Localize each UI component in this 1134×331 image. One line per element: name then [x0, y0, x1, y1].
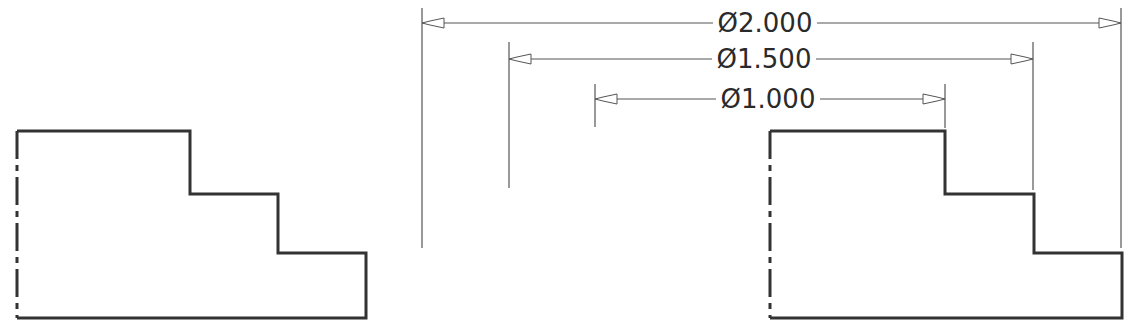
profile-outline [17, 131, 366, 318]
profile-outline [770, 131, 1122, 318]
arrow-left-icon [595, 94, 617, 104]
drawing-canvas: Ø2.000Ø1.500Ø1.000 [0, 0, 1134, 331]
arrow-right-icon [1011, 54, 1033, 64]
left-profile [17, 131, 366, 318]
dimension-1000: Ø1.000 [595, 84, 945, 128]
dimension-label: Ø1.000 [721, 84, 816, 114]
dimension-label: Ø1.500 [717, 44, 812, 74]
arrow-right-icon [923, 94, 945, 104]
right-profile [770, 131, 1122, 318]
arrow-left-icon [509, 54, 531, 64]
arrow-left-icon [422, 18, 444, 28]
dimension-label: Ø2.000 [718, 8, 813, 38]
arrow-right-icon [1099, 18, 1121, 28]
